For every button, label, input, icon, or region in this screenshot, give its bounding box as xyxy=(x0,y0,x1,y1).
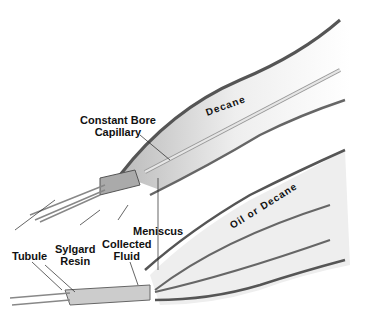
label-collected-fluid: Collected Fluid xyxy=(102,238,152,262)
upper-tubule xyxy=(30,185,105,222)
label-tubule: Tubule xyxy=(12,250,47,262)
label-capillary: Constant Bore Capillary xyxy=(80,114,156,138)
illustration xyxy=(0,0,367,324)
label-meniscus: Meniscus xyxy=(133,225,183,237)
tubule-perfusion-diagram: Decane Constant Bore Capillary Oil or De… xyxy=(0,0,367,324)
label-sylgard-resin: Sylgard Resin xyxy=(55,243,95,267)
lower-tubule xyxy=(10,293,70,305)
